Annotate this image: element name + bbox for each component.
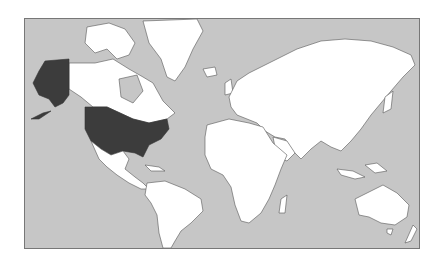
australia	[355, 185, 409, 225]
world-map	[24, 18, 420, 249]
map-canvas	[25, 19, 419, 248]
alaska	[33, 59, 69, 107]
canada-islands	[85, 23, 135, 59]
new-zealand	[405, 225, 417, 243]
south-america	[145, 181, 203, 248]
greenland	[143, 19, 203, 81]
